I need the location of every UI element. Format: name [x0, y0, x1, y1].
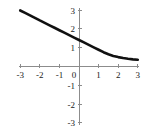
x-tick-label-1: 1	[96, 70, 101, 80]
x-tick-label-3: 3	[136, 70, 141, 80]
plot-area: -3-2-10123-3-2-1123	[0, 0, 143, 138]
x-tick-label--1: -1	[56, 70, 64, 80]
x-tick-label--2: -2	[36, 70, 44, 80]
x-tick-label-0: 0	[72, 70, 77, 80]
x-tick-label--3: -3	[16, 70, 24, 80]
chart-container: -3-2-10123-3-2-1123	[0, 0, 143, 138]
y-tick-label-2: 2	[71, 24, 76, 34]
y-tick-label-1: 1	[71, 43, 76, 53]
y-tick-label--2: -2	[68, 100, 76, 110]
axis-group	[19, 8, 139, 125]
y-tick-label--3: -3	[68, 118, 76, 128]
x-tick-label-2: 2	[116, 70, 121, 80]
y-tick-label-3: 3	[71, 6, 76, 16]
y-tick-label--1: -1	[68, 81, 76, 91]
